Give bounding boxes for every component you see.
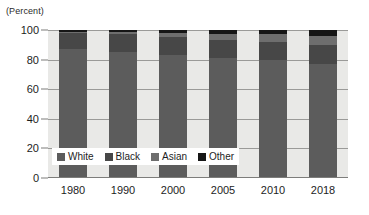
y-tick-label: 100 <box>21 24 48 36</box>
bar-segment <box>159 37 187 55</box>
bar-segment <box>309 64 337 178</box>
y-tick-label: 20 <box>27 142 48 154</box>
legend-label: Other <box>209 152 234 162</box>
bar-segment <box>259 60 287 178</box>
x-tick-label: 1990 <box>111 184 135 196</box>
legend-item: Other <box>198 152 234 162</box>
chart-legend: WhiteBlackAsianOther <box>52 148 239 165</box>
bar-segment <box>309 45 337 64</box>
bar-segment <box>209 40 237 58</box>
legend-label: Black <box>116 152 140 162</box>
x-tick-label: 2010 <box>261 184 285 196</box>
legend-item: Asian <box>151 152 187 162</box>
y-tick-label: 80 <box>27 54 48 66</box>
y-axis-unit-caption: (Percent) <box>6 6 44 16</box>
legend-item: Black <box>105 152 140 162</box>
gridline <box>48 60 348 61</box>
legend-swatch-icon <box>151 153 159 161</box>
stacked-bar-chart: (Percent) 020406080100 19801990200020052… <box>0 0 369 215</box>
x-tick-label: 2000 <box>161 184 185 196</box>
gridline <box>48 119 348 120</box>
legend-label: Asian <box>162 152 187 162</box>
gridline <box>48 89 348 90</box>
x-tick-label: 2018 <box>311 184 335 196</box>
bar <box>309 30 337 178</box>
legend-item: White <box>57 152 94 162</box>
x-tick-label: 1980 <box>61 184 85 196</box>
bar <box>259 30 287 178</box>
bar-segment <box>259 42 287 60</box>
axis-baseline <box>48 177 348 178</box>
gridline <box>48 30 348 31</box>
bar-segment <box>259 34 287 41</box>
y-tick-label: 60 <box>27 83 48 95</box>
bar-segment <box>109 34 137 52</box>
legend-swatch-icon <box>198 153 206 161</box>
bar-segment <box>59 33 87 49</box>
legend-label: White <box>68 152 94 162</box>
y-tick-label: 40 <box>27 113 48 125</box>
x-tick-label: 2005 <box>211 184 235 196</box>
bar-segment <box>309 36 337 45</box>
legend-swatch-icon <box>57 153 65 161</box>
legend-swatch-icon <box>105 153 113 161</box>
y-tick-label: 0 <box>33 172 48 184</box>
